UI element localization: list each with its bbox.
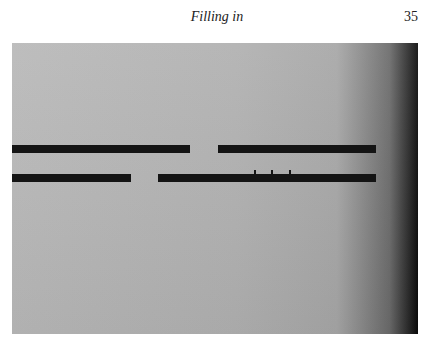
- running-title: Filling in: [0, 9, 434, 25]
- tick-mark: [271, 170, 273, 175]
- bar-row2-left: [12, 174, 131, 182]
- page-number: 35: [404, 9, 418, 25]
- tick-mark: [254, 170, 256, 175]
- figure-illusion-bars: [12, 43, 418, 334]
- running-head: Filling in 35: [0, 8, 434, 28]
- bar-row1-right: [218, 145, 376, 153]
- tick-mark: [289, 170, 291, 175]
- bar-row2-right: [158, 174, 376, 182]
- bar-row1-left: [12, 145, 190, 153]
